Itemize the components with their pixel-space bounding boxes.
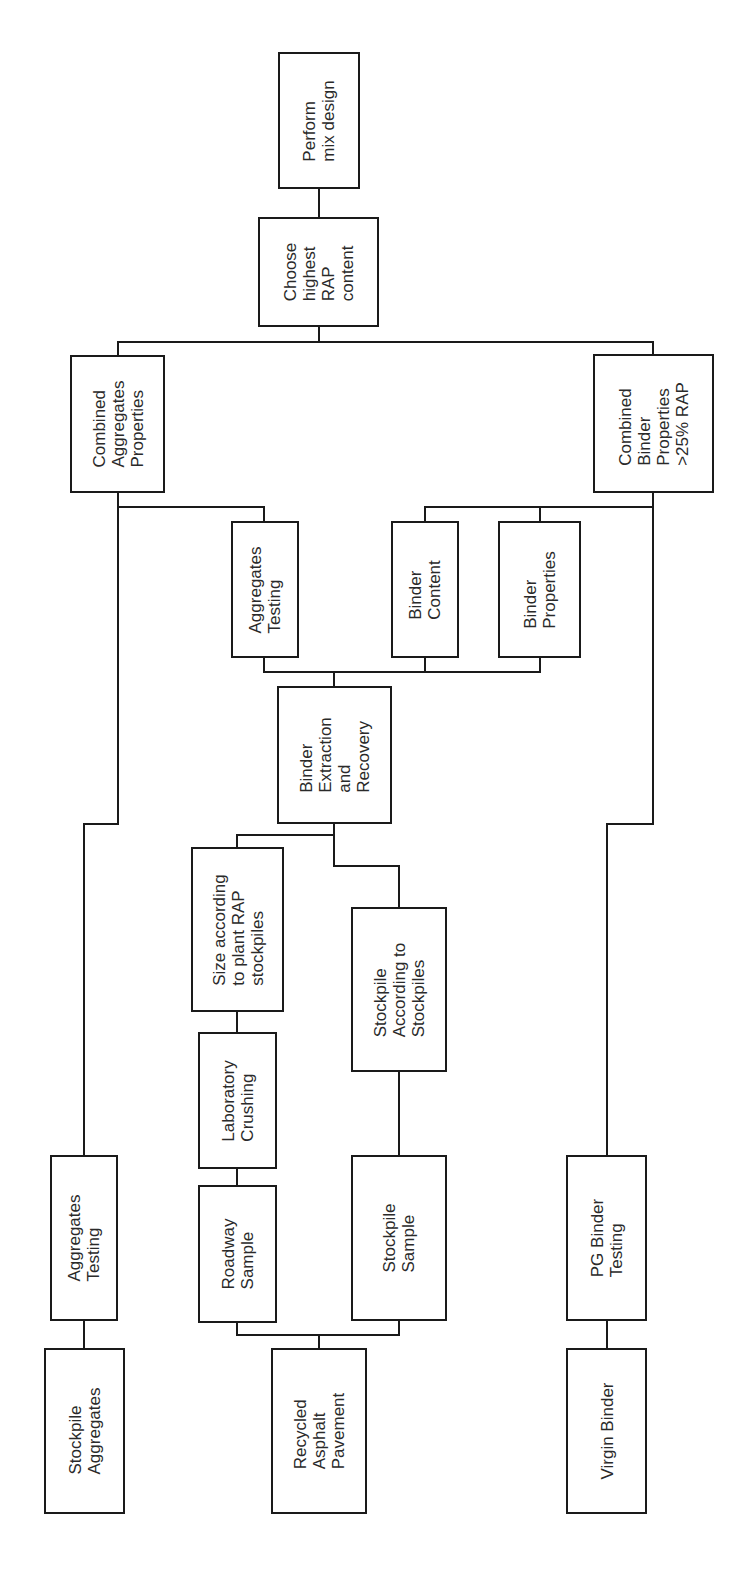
node-binder-content: Binder Content (391, 521, 459, 658)
node-laboratory-crushing: Laboratory Crushing (198, 1032, 277, 1169)
node-label: Virgin Binder (597, 1382, 616, 1479)
node-label: Aggregates Testing (65, 1195, 103, 1282)
node-label: Aggregates Testing (246, 546, 284, 633)
node-aggregates-testing-rap: Aggregates Testing (231, 521, 299, 658)
node-combined-aggregates-properties: Combined Aggregates Properties (70, 355, 165, 493)
node-combined-binder-properties: Combined Binder Properties >25% RAP (593, 354, 714, 493)
node-roadway-sample: Roadway Sample (198, 1185, 277, 1323)
node-stockpile-according-to-stockpiles: Stockpile According to Stockpiles (351, 907, 447, 1072)
node-perform-mix-design: Perform mix design (278, 52, 360, 189)
node-label: Recycled Asphalt Pavement (291, 1393, 348, 1470)
node-aggregates-testing-virgin: Aggregates Testing (50, 1155, 118, 1321)
node-binder-extraction-recovery: Binder Extraction and Recovery (277, 686, 392, 824)
node-binder-properties: Binder Properties (498, 521, 581, 658)
connector-line (237, 1321, 399, 1335)
connector-line (607, 507, 653, 1155)
node-label: Laboratory Crushing (219, 1060, 257, 1141)
connector-line (334, 835, 399, 907)
node-label: Binder Content (406, 560, 444, 620)
node-pg-binder-testing: PG Binder Testing (566, 1155, 647, 1321)
connector-line (237, 824, 334, 847)
node-label: Size according to plant RAP stockpiles (209, 874, 266, 986)
connector-line (118, 493, 264, 521)
node-label: Stockpile Aggregates (66, 1388, 104, 1475)
node-label: Choose highest RAP content (281, 243, 357, 302)
node-label: Perform mix design (300, 80, 338, 161)
connector-line (118, 342, 653, 355)
node-label: Binder Extraction and Recovery (297, 717, 373, 793)
node-recycled-asphalt-pavement: Recycled Asphalt Pavement (271, 1348, 367, 1514)
node-label: Roadway Sample (219, 1219, 257, 1290)
node-choose-highest-rap-content: Choose highest RAP content (258, 217, 379, 327)
node-label: Stockpile Sample (380, 1204, 418, 1273)
node-label: PG Binder Testing (588, 1199, 626, 1277)
node-stockpile-sample: Stockpile Sample (351, 1155, 447, 1321)
rap-mix-design-flowchart: Perform mix design Choose highest RAP co… (0, 0, 732, 1590)
node-label: Binder Properties (521, 551, 559, 628)
node-label: Combined Aggregates Properties (89, 381, 146, 468)
node-stockpile-aggregates: Stockpile Aggregates (44, 1348, 125, 1514)
node-label: Stockpile According to Stockpiles (371, 942, 428, 1037)
node-virgin-binder: Virgin Binder (566, 1348, 647, 1514)
node-size-according-to-plant: Size according to plant RAP stockpiles (191, 847, 284, 1012)
connector-line (264, 658, 540, 672)
connector-line (84, 507, 118, 1155)
node-label: Combined Binder Properties >25% RAP (616, 382, 692, 466)
